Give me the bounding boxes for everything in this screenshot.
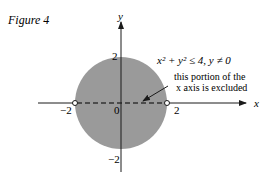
figure-canvas: Figure 4 y x 2 −2 −2 2 0 x² + y² ≤ 4, y … [0,0,273,182]
annotation-line-1: this portion of the [174,71,246,82]
y-tick-2: 2 [112,50,118,62]
y-tick-neg2: −2 [108,153,120,165]
x-tick-neg2: −2 [60,104,72,116]
x-axis-label: x [253,97,259,109]
open-endpoint-right [165,101,170,106]
x-tick-2: 2 [174,104,180,116]
open-endpoint-left [73,101,78,106]
annotation-line-2: x axis is excluded [176,82,247,93]
figure-caption: Figure 4 [7,13,49,27]
region-inequality: x² + y² ≤ 4, y ≠ 0 [156,54,231,66]
origin-label: 0 [114,104,120,116]
y-axis-label: y [117,10,123,22]
